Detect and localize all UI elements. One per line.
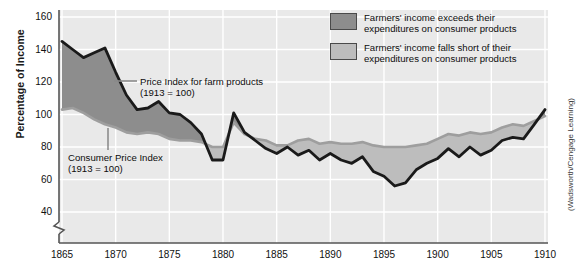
legend-label-exceeds: Farmers' income exceeds their expenditur… (364, 12, 517, 35)
x-tick-1865: 1865 (40, 249, 84, 260)
chart-legend: Farmers' income exceeds their expenditur… (330, 12, 582, 72)
y-tick-100: 100 (18, 109, 52, 120)
annotation-cpi-line1: Consumer Price Index (68, 152, 163, 163)
legend-swatch-short (330, 43, 357, 60)
x-tick-1895: 1895 (362, 249, 406, 260)
annotation-farm-line2: (1913 = 100) (140, 87, 263, 98)
annotation-cpi-line2: (1913 = 100) (68, 163, 163, 174)
legend-label-short-line1: Farmers' income falls short of their (364, 42, 517, 53)
legend-label-short: Farmers' income falls short of their exp… (364, 42, 517, 65)
legend-label-exceeds-line1: Farmers' income exceeds their (364, 12, 517, 23)
x-tick-1890: 1890 (308, 249, 352, 260)
x-tick-1880: 1880 (201, 249, 245, 260)
y-tick-140: 140 (18, 44, 52, 55)
y-tick-60: 60 (18, 174, 52, 185)
legend-label-exceeds-line2: expenditures on consumer products (364, 23, 517, 34)
legend-item-short: Farmers' income falls short of their exp… (330, 42, 582, 65)
x-tick-1905: 1905 (469, 249, 513, 260)
y-tick-120: 120 (18, 76, 52, 87)
source-credit: (Wadsworth/Cengage Learning) (566, 90, 575, 220)
annotation-farm-price-index: Price Index for farm products (1913 = 10… (140, 76, 263, 99)
x-tick-1875: 1875 (147, 249, 191, 260)
y-tick-40: 40 (18, 206, 52, 217)
legend-item-exceeds: Farmers' income exceeds their expenditur… (330, 12, 582, 35)
annotation-consumer-price-index: Consumer Price Index (1913 = 100) (68, 152, 163, 175)
x-tick-1870: 1870 (94, 249, 138, 260)
annotation-farm-line1: Price Index for farm products (140, 76, 263, 87)
x-tick-1900: 1900 (416, 249, 460, 260)
y-tick-80: 80 (18, 141, 52, 152)
y-tick-160: 160 (18, 11, 52, 22)
legend-swatch-exceeds (330, 13, 357, 30)
chart-figure: Percentage of Income (Wadsworth/Cengage … (0, 0, 587, 273)
legend-label-short-line2: expenditures on consumer products (364, 53, 517, 64)
x-tick-1910: 1910 (523, 249, 567, 260)
x-tick-1885: 1885 (255, 249, 299, 260)
